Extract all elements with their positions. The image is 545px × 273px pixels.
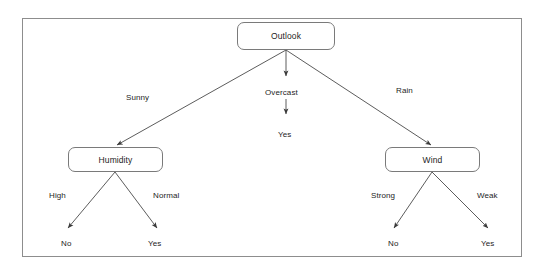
leaf-high-no: No <box>61 239 71 248</box>
edge-label-weak: Weak <box>477 191 498 200</box>
node-outlook-label: Outlook <box>271 31 301 41</box>
node-humidity-label: Humidity <box>99 155 133 165</box>
leaf-weak-yes: Yes <box>481 239 494 248</box>
node-humidity[interactable]: Humidity <box>68 147 163 172</box>
node-wind-label: Wind <box>423 155 443 165</box>
leaf-normal-yes: Yes <box>148 239 161 248</box>
edge-label-sunny: Sunny <box>126 93 149 102</box>
leaf-overcast-yes: Yes <box>278 130 291 139</box>
decision-tree-diagram: Outlook Humidity Wind Sunny Overcast Rai… <box>0 0 545 273</box>
edge-label-rain: Rain <box>396 86 413 95</box>
diagram-frame <box>22 18 522 257</box>
node-outlook[interactable]: Outlook <box>237 22 335 50</box>
edge-label-overcast: Overcast <box>265 88 298 97</box>
leaf-strong-no: No <box>388 239 398 248</box>
edge-label-strong: Strong <box>371 191 395 200</box>
node-wind[interactable]: Wind <box>385 147 480 172</box>
edge-label-normal: Normal <box>153 191 179 200</box>
edge-label-high: High <box>49 191 66 200</box>
